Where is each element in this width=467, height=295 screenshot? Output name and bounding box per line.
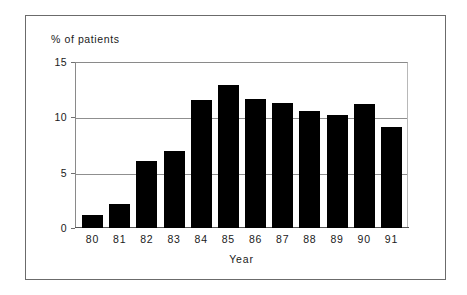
- y-axis-label: % of patients: [51, 33, 120, 45]
- x-tick-label: 84: [188, 233, 215, 249]
- bar[interactable]: [327, 115, 348, 228]
- bar-series: [75, 62, 408, 228]
- bar[interactable]: [82, 215, 103, 228]
- bar[interactable]: [191, 100, 212, 228]
- bar[interactable]: [381, 127, 402, 228]
- bar-slot: [106, 62, 133, 228]
- x-tick-label: 86: [242, 233, 269, 249]
- y-tick-mark: [71, 62, 75, 63]
- bar-slot: [215, 62, 242, 228]
- y-tick-mark: [71, 228, 75, 229]
- x-axis-tick-labels: 808182838485868788899091: [75, 233, 408, 249]
- bar-slot: [188, 62, 215, 228]
- bar[interactable]: [218, 85, 239, 228]
- bar[interactable]: [136, 161, 157, 229]
- x-tick-label: 80: [79, 233, 106, 249]
- bar-slot: [242, 62, 269, 228]
- x-tick-label: 91: [378, 233, 405, 249]
- bar-slot: [269, 62, 296, 228]
- x-tick-label: 81: [106, 233, 133, 249]
- x-tick-label: 90: [351, 233, 378, 249]
- bar-slot: [351, 62, 378, 228]
- bar-slot: [324, 62, 351, 228]
- bar[interactable]: [109, 204, 130, 228]
- x-tick-label: 82: [133, 233, 160, 249]
- bar[interactable]: [164, 151, 185, 228]
- bar[interactable]: [299, 111, 320, 228]
- x-tick-label: 85: [215, 233, 242, 249]
- x-tick-label: 87: [269, 233, 296, 249]
- y-tick-mark: [71, 173, 75, 174]
- x-axis-title: Year: [75, 253, 408, 265]
- x-tick-label: 88: [296, 233, 323, 249]
- bar-slot: [378, 62, 405, 228]
- y-tick-label: 5: [45, 167, 67, 179]
- y-tick-label: 15: [45, 56, 67, 68]
- chart-figure: % of patients 808182838485868788899091 Y…: [0, 0, 467, 295]
- y-tick-mark: [71, 117, 75, 118]
- bar-slot: [161, 62, 188, 228]
- bar[interactable]: [245, 99, 266, 228]
- x-tick-label: 83: [161, 233, 188, 249]
- bar-slot: [296, 62, 323, 228]
- x-tick-label: 89: [324, 233, 351, 249]
- bar[interactable]: [272, 103, 293, 228]
- bar-slot: [79, 62, 106, 228]
- bar-slot: [133, 62, 160, 228]
- y-tick-label: 10: [45, 111, 67, 123]
- y-tick-label: 0: [45, 222, 67, 234]
- bar[interactable]: [354, 104, 375, 228]
